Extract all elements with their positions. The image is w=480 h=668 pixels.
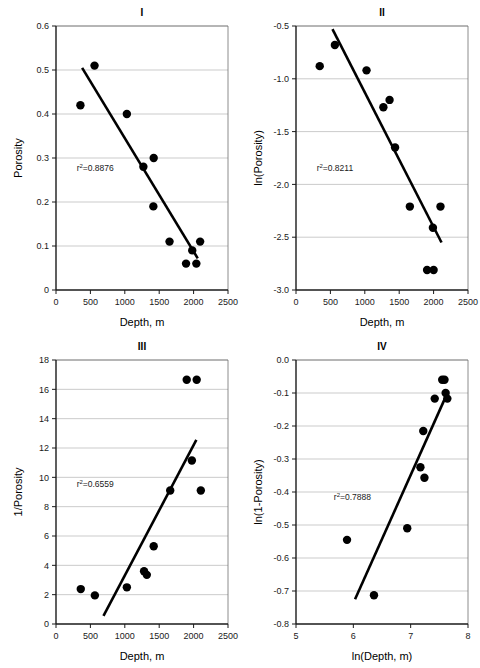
y-tick-label: -0.2 xyxy=(273,421,289,431)
x-tick-label: 500 xyxy=(323,297,338,307)
data-point xyxy=(443,394,451,402)
x-tick-label: 1500 xyxy=(389,297,409,307)
y-tick-label: -1.0 xyxy=(273,74,289,84)
data-point xyxy=(182,259,190,267)
data-point xyxy=(406,202,414,210)
y-tick-label: 0.4 xyxy=(36,109,49,119)
data-point xyxy=(429,223,437,231)
y-tick-label: 0 xyxy=(44,619,49,629)
y-tick-label: 2 xyxy=(44,590,49,600)
r-squared-annotation: r2=0.6559 xyxy=(77,479,114,489)
y-axis-title: 1/Porosity xyxy=(12,467,24,516)
chart-panel-2: II-3.0-2.5-2.0-1.5-1.0-0.505001000150020… xyxy=(240,0,480,334)
data-point xyxy=(143,571,151,579)
y-tick-label: -0.4 xyxy=(273,487,289,497)
y-tick-label: 10 xyxy=(39,473,49,483)
data-point xyxy=(429,266,437,274)
regression-trendline xyxy=(103,440,196,616)
chart-svg-III: III02468101214161805001000150020002500De… xyxy=(0,334,240,668)
y-tick-label: 0.5 xyxy=(36,65,49,75)
chart-svg-II: II-3.0-2.5-2.0-1.5-1.0-0.505001000150020… xyxy=(240,0,480,334)
data-point xyxy=(391,143,399,151)
data-point xyxy=(183,376,191,384)
data-point xyxy=(76,101,84,109)
y-tick-label: -1.5 xyxy=(273,127,289,137)
y-tick-label: -0.1 xyxy=(273,388,289,398)
r-squared-annotation: r2=0.8211 xyxy=(317,163,354,173)
x-tick-label: 8 xyxy=(465,631,470,641)
x-axis-title: Depth, m xyxy=(120,316,165,328)
panel-title: III xyxy=(138,341,147,352)
data-point xyxy=(188,456,196,464)
data-point xyxy=(149,154,157,162)
y-axis-title: Porosity xyxy=(12,138,24,178)
y-tick-label: 4 xyxy=(44,561,49,571)
x-tick-label: 6 xyxy=(351,631,356,641)
regression-trendline xyxy=(332,29,441,242)
data-point xyxy=(343,536,351,544)
data-point xyxy=(165,237,173,245)
data-point xyxy=(420,474,428,482)
data-point xyxy=(91,591,99,599)
data-point xyxy=(188,246,196,254)
data-point xyxy=(419,427,427,435)
y-tick-label: 6 xyxy=(44,531,49,541)
y-tick-label: -2.0 xyxy=(273,180,289,190)
data-point xyxy=(440,376,448,384)
data-point xyxy=(370,591,378,599)
x-tick-label: 0 xyxy=(53,631,58,641)
data-point xyxy=(331,41,339,49)
x-tick-label: 5 xyxy=(293,631,298,641)
data-point xyxy=(379,103,387,111)
panel-title: I xyxy=(141,7,144,18)
x-tick-label: 2500 xyxy=(218,297,238,307)
data-point xyxy=(139,163,147,171)
y-tick-label: -3.0 xyxy=(273,285,289,295)
x-tick-label: 0 xyxy=(53,297,58,307)
y-tick-label: 0.1 xyxy=(36,241,49,251)
y-tick-label: 16 xyxy=(39,385,49,395)
chart-panel-3: III02468101214161805001000150020002500De… xyxy=(0,334,240,668)
x-tick-label: 1500 xyxy=(149,297,169,307)
x-tick-label: 0 xyxy=(293,297,298,307)
figure-root: I00.10.20.30.40.50.605001000150020002500… xyxy=(0,0,480,668)
data-point xyxy=(403,524,411,532)
y-tick-label: 0.3 xyxy=(36,153,49,163)
y-tick-label: -2.5 xyxy=(273,232,289,242)
y-tick-label: 18 xyxy=(39,355,49,365)
data-point xyxy=(197,486,205,494)
data-point xyxy=(149,542,157,550)
y-tick-label: 14 xyxy=(39,414,49,424)
data-point xyxy=(77,585,85,593)
chart-svg-I: I00.10.20.30.40.50.605001000150020002500… xyxy=(0,0,240,334)
x-tick-label: 2500 xyxy=(218,631,238,641)
y-tick-label: 8 xyxy=(44,502,49,512)
r-squared-annotation: r2=0.8876 xyxy=(77,163,114,173)
y-tick-label: 0.0 xyxy=(276,355,289,365)
data-point xyxy=(416,463,424,471)
y-tick-label: 0.2 xyxy=(36,197,49,207)
y-tick-label: -0.5 xyxy=(273,520,289,530)
r-squared-annotation: r2=0.7888 xyxy=(334,492,371,502)
data-point xyxy=(385,96,393,104)
data-point xyxy=(123,110,131,118)
data-point xyxy=(362,66,370,74)
y-tick-label: -0.7 xyxy=(273,586,289,596)
y-axis-title: ln(Porosity) xyxy=(252,130,264,186)
x-axis-title: Depth, m xyxy=(120,650,165,662)
data-point xyxy=(123,583,131,591)
y-tick-label: -0.6 xyxy=(273,553,289,563)
y-tick-label: -0.3 xyxy=(273,454,289,464)
data-point xyxy=(192,259,200,267)
x-tick-label: 1000 xyxy=(115,631,135,641)
x-tick-label: 1000 xyxy=(115,297,135,307)
x-tick-label: 2000 xyxy=(424,297,444,307)
data-point xyxy=(431,394,439,402)
x-tick-label: 7 xyxy=(408,631,413,641)
y-tick-label: -0.5 xyxy=(273,21,289,31)
chart-panel-1: I00.10.20.30.40.50.605001000150020002500… xyxy=(0,0,240,334)
panel-title: IV xyxy=(377,341,387,352)
data-point xyxy=(90,61,98,69)
data-point xyxy=(196,237,204,245)
y-tick-label: 12 xyxy=(39,443,49,453)
